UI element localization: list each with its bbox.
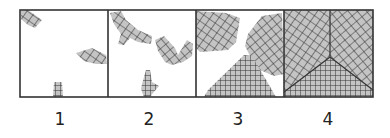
panel-1: [21, 10, 107, 97]
panel-label-1: 1: [45, 109, 75, 129]
panel-2: [110, 11, 193, 97]
panel-label-2: 2: [134, 109, 164, 129]
panel-4: [284, 10, 373, 97]
panel-3: [196, 11, 284, 97]
panel-label-3: 3: [223, 109, 253, 129]
panel-label-4: 4: [313, 109, 343, 129]
